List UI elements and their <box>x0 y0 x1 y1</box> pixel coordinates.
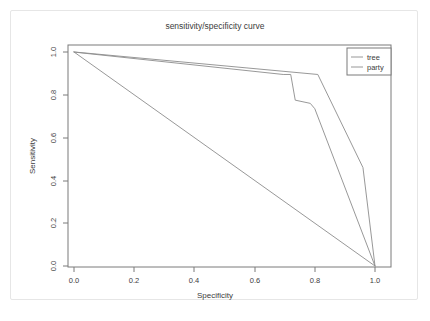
y-tick-label-2: 0.4 <box>49 176 58 186</box>
x-tick-label-5: 1.0 <box>370 276 380 285</box>
legend-label-party: party <box>367 63 384 72</box>
series-line-diagonal-reference <box>74 52 375 266</box>
x-tick-label-1: 0.2 <box>129 276 139 285</box>
plot-frame <box>68 45 391 267</box>
x-tick-label-4: 0.8 <box>310 276 320 285</box>
chart-title: sensitivity/specificity curve <box>165 21 264 31</box>
legend-label-tree: tree <box>367 53 380 62</box>
y-tick-label-4: 0.8 <box>49 90 58 100</box>
x-axis-title: Specificity <box>197 291 233 300</box>
x-tick-label-3: 0.6 <box>250 276 260 285</box>
y-tick-label-3: 0.6 <box>49 133 58 143</box>
y-tick-label-1: 0.2 <box>49 218 58 228</box>
legend: tree party <box>347 48 391 75</box>
series-group <box>74 52 375 266</box>
y-axis: 0.0 0.2 0.4 0.6 0.8 1.0 Sensitivity <box>28 47 68 271</box>
sensitivity-specificity-chart: sensitivity/specificity curve 0.0 0.2 0.… <box>11 11 419 301</box>
x-axis: 0.0 0.2 0.4 0.6 0.8 1.0 Specificity <box>69 267 380 300</box>
y-tick-label-5: 1.0 <box>49 47 58 57</box>
y-axis-title: Sensitivity <box>28 138 37 174</box>
x-tick-label-0: 0.0 <box>69 276 79 285</box>
chart-card: sensitivity/specificity curve 0.0 0.2 0.… <box>10 10 418 300</box>
x-tick-label-2: 0.4 <box>189 276 199 285</box>
y-tick-label-0: 0.0 <box>49 261 58 271</box>
